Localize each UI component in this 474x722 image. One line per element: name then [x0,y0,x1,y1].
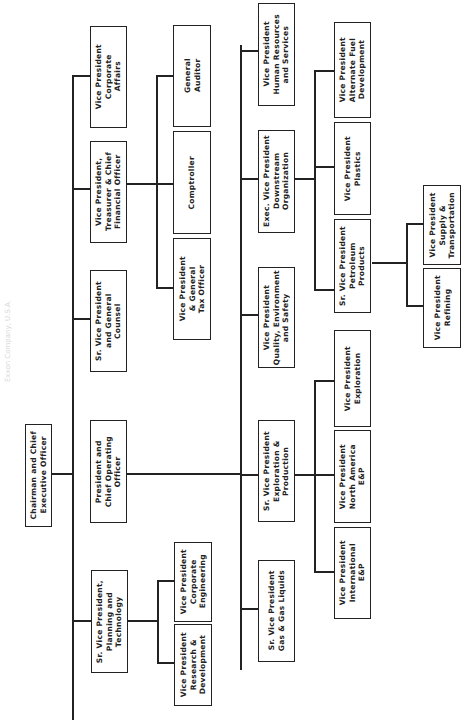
connector [314,166,334,168]
connector [72,75,74,720]
node-label: Vice President, Treasurer & Chief Financ… [94,152,123,231]
node-vp-alt-fuel: Vice President Alternate Fuel Developmen… [334,22,371,118]
connector [157,580,175,582]
connector [295,474,315,476]
connector [127,183,157,185]
node-svp-petroleum: Sr. Vice President Petroleum Products [334,219,371,313]
node-label: Vice President Research & Development [179,632,208,697]
connector [156,75,174,77]
node-svp-counsel: Sr. Vice President and General Counsel [90,270,127,372]
node-vp-refining: Vice President Refining [423,268,461,348]
node-label: Chairman and Chief Executive Officer [29,431,48,520]
node-svp-planning: Sr. Vice President, Planning and Technol… [91,570,128,673]
node-label: Sr. Vice President Exploration & Product… [262,431,291,511]
node-auditor: General Auditor [173,25,211,127]
node-label: Vice President Corporate Affairs [94,44,123,109]
node-vp-corporate-affairs: Vice President Corporate Affairs [90,26,127,128]
connector [314,70,316,290]
connector [127,473,242,475]
connector [156,183,174,185]
connector [157,580,159,663]
node-label: Vice President Supply & Transportation [428,192,457,259]
connector [240,178,258,180]
node-vp-engineering: Vice President Corporate Engineering [174,542,212,622]
node-label: Vice President North America E&P [338,444,367,509]
node-label: Sr. Vice President and General Counsel [94,281,123,361]
node-vp-cfo: Vice President, Treasurer & Chief Financ… [90,141,127,243]
node-vp-research: Vice President Research & Development [174,624,212,706]
node-label: President and Chief Operating Officer [94,436,123,507]
connector [72,188,92,190]
node-svp-gas: Sr. Vice President Gas & Gas Liquids [258,560,295,662]
connector [314,289,334,291]
connector [72,318,92,320]
node-label: Vice President Exploration [343,346,362,411]
connector [406,223,408,306]
node-vp-tax: Vice President & General Tax Officer [173,238,211,340]
node-label: Vice President International E&P [338,540,367,605]
node-vp-north-america: Vice President North America E&P [334,430,371,523]
node-label: Vice President Corporate Engineering [179,549,208,614]
node-vp-international: Vice President International E&P [334,527,371,619]
connector [295,178,315,180]
connector [72,620,92,622]
connector [240,50,258,52]
connector [240,314,258,316]
node-svp-exploration-production: Sr. Vice President Exploration & Product… [258,420,295,522]
connector [52,473,73,475]
connector [240,474,258,476]
node-vp-quality: Vice President Quality, Environment and … [258,267,295,368]
connector [314,474,334,476]
connector [156,75,158,288]
node-vp-exploration: Vice President Exploration [334,330,371,427]
connector [406,305,423,307]
node-vp-plastics: Vice President Plastics [334,122,371,215]
node-label: Vice President Plastics [343,136,362,201]
connector [157,662,175,664]
node-evp-downstream: Exec. Vice President Downstream Organiza… [258,130,295,233]
connector [240,608,258,610]
node-label: Vice President & General Tax Officer [178,256,207,321]
node-label: Vice President Quality, Environment and … [262,270,291,365]
node-vp-supply: Vice President Supply & Transportation [423,185,461,265]
connector [314,380,316,572]
connector [314,70,334,72]
node-label: Comptroller [187,156,197,210]
node-label: Vice President Human Resources and Servi… [262,14,291,94]
connector [240,45,242,670]
connector [314,380,334,382]
chart-caption: Exxon Company, U.S.A. [4,300,12,382]
node-label: Sr. Vice President, Planning and Technol… [95,580,124,663]
connector [406,223,423,225]
connector [314,571,334,573]
node-president: President and Chief Operating Officer [90,420,127,523]
node-label: Sr. Vice President Gas & Gas Liquids [267,570,286,651]
node-label: General Auditor [183,58,202,93]
node-label: Sr. Vice President Petroleum Products [338,226,367,306]
connector [127,620,158,622]
connector [156,287,174,289]
node-ceo: Chairman and Chief Executive Officer [25,424,52,527]
node-label: Exec. Vice President Downstream Organiza… [262,135,291,227]
node-label: Vice President Alternate Fuel Developmen… [338,37,367,102]
node-comptroller: Comptroller [173,131,211,234]
connector [372,262,407,264]
node-label: Vice President Refining [433,275,452,340]
node-vp-human-resources: Vice President Human Resources and Servi… [258,3,295,106]
